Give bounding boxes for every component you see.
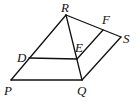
label-Q: Q: [77, 83, 87, 98]
segment-RS: [66, 15, 121, 37]
segment-QS: [82, 37, 121, 80]
geometry-diagram: R F S E D P Q: [0, 0, 136, 102]
segment-RP: [11, 15, 66, 80]
label-S: S: [123, 31, 130, 46]
segment-DE: [29, 58, 77, 59]
label-R: R: [60, 0, 69, 15]
label-F: F: [101, 12, 111, 27]
label-D: D: [16, 50, 27, 65]
label-E: E: [74, 40, 83, 55]
label-P: P: [3, 83, 12, 98]
